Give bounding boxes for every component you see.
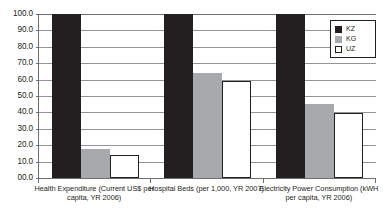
y-axis: 100.090.080.070.060.050.040.030.020.010.…	[0, 0, 36, 215]
filled-black-square-icon	[335, 26, 342, 33]
bar-kz-3	[276, 14, 305, 178]
bar-uz-1	[110, 155, 139, 178]
y-axis-tick-label: 30.0	[17, 125, 33, 133]
plot-area	[38, 14, 375, 178]
y-axis-tick-label: 20.0	[17, 141, 33, 149]
category-separator	[150, 178, 151, 183]
legend-entry-uz[interactable]: UZ	[335, 44, 372, 54]
x-axis-baseline	[38, 178, 375, 179]
y-axis-tick-label: 10.0	[17, 158, 33, 166]
category-separator-end	[38, 178, 39, 183]
bar-kg-3	[305, 104, 334, 178]
y-axis-tick-label: 100.0	[13, 10, 33, 18]
legend-label: UZ	[346, 45, 355, 53]
bar-kg-1	[81, 149, 110, 178]
y-axis-tick-label: 90.0	[17, 26, 33, 34]
bar-uz-2	[222, 81, 251, 178]
category-label-3: Electricity Power Consumption (kWH per c…	[258, 184, 380, 203]
category-label-2: Hospital Beds (per 1,000, YR 2007)	[145, 184, 267, 193]
bars-layer	[39, 14, 376, 178]
legend-label: KG	[346, 35, 356, 43]
y-axis-tick-label: 70.0	[17, 59, 33, 67]
y-axis-tick-label: 00.0	[17, 174, 33, 182]
legend: KZKGUZ	[330, 20, 376, 58]
y-axis-tick-label: 40.0	[17, 108, 33, 116]
bar-kg-2	[193, 73, 222, 178]
category-label-1: Health Expenditure (Current US$ per capi…	[33, 184, 155, 203]
bar-chart: 100.090.080.070.060.050.040.030.020.010.…	[0, 0, 383, 215]
bar-kz-1	[52, 14, 81, 178]
y-axis-tick-label: 60.0	[17, 76, 33, 84]
legend-entry-kg[interactable]: KG	[335, 34, 372, 44]
y-axis-tick-label: 50.0	[17, 92, 33, 100]
outlined-white-square-icon	[335, 46, 342, 53]
filled-gray-square-icon	[335, 36, 342, 43]
y-axis-tick-label: 80.0	[17, 43, 33, 51]
bar-uz-3	[334, 113, 363, 178]
bar-kz-2	[164, 14, 193, 178]
category-separator	[263, 178, 264, 183]
legend-label: KZ	[346, 25, 355, 33]
legend-entry-kz[interactable]: KZ	[335, 24, 372, 34]
category-separator-end	[375, 178, 376, 183]
